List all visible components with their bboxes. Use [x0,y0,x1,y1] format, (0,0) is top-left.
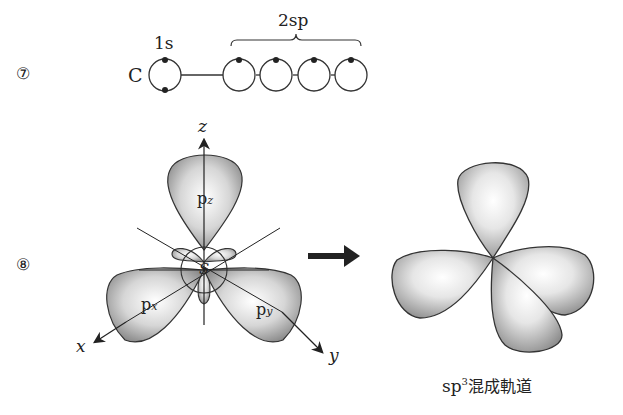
p-orbitals-figure [95,140,322,352]
element-label: C [128,66,143,85]
orbital-2sp-3 [298,57,330,91]
py-lobe [204,268,301,342]
label-1s: 1s [154,35,174,52]
s-label: S [199,262,209,277]
py-label: py [256,302,272,318]
y-axis-label: y [329,347,339,364]
label-2sp: 2sp [278,12,308,29]
electron-dot [162,57,168,63]
2sp-brace [231,34,361,46]
pz-label: pz [197,191,213,207]
sp3-caption: sp3混成軌道 [442,377,532,395]
item-marker-7: ⑦ [16,66,30,82]
z-axis-label: z [198,118,207,135]
electron-config-row [149,34,367,93]
orbital-2sp-2 [260,57,292,91]
px-label: px [141,297,157,313]
orbital-2sp-1 [223,57,255,91]
item-marker-8: ⑧ [16,257,30,273]
orbital-1s [149,57,181,93]
electron-dot [162,87,168,93]
x-axis-label: x [76,338,86,355]
orbital-2sp-4 [335,57,367,91]
orbital-diagram [0,0,623,415]
sp3-hybrid-figure [392,163,594,352]
transform-arrow [308,245,360,267]
